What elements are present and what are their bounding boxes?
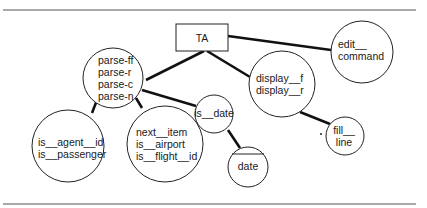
- node-ta: TA: [176, 24, 228, 51]
- node-date: date: [228, 147, 268, 187]
- node-next-item-line-3: is__flight__id: [136, 150, 197, 162]
- node-is-agent: is__agent__id is__passenger: [32, 110, 107, 182]
- node-next-item: next__item is__airport is__flight__id: [127, 106, 203, 182]
- node-parse-line-1: parse-ff: [98, 54, 133, 66]
- node-parse: parse-ff parse-r parse-c parse-n: [83, 48, 143, 108]
- edge-ta-edit-command: [228, 36, 331, 50]
- node-fill-line-line-2: line: [336, 136, 353, 148]
- node-parse-line-3: parse-c: [98, 78, 133, 90]
- node-parse-line-2: parse-r: [98, 66, 132, 78]
- node-is-date-label: is__date: [194, 107, 234, 119]
- node-parse-line-4: parse-n: [98, 90, 134, 102]
- node-next-item-line-1: next__item: [136, 126, 188, 138]
- node-edit-command: edit__ command: [331, 21, 393, 83]
- node-display: display__f display__r: [249, 51, 315, 117]
- node-next-item-line-2: is__airport: [136, 138, 185, 150]
- edge-is-date-date: [228, 130, 240, 148]
- node-is-agent-line-2: is__passenger: [38, 148, 107, 160]
- node-edit-command-line-1: edit__: [338, 38, 367, 50]
- node-date-label: date: [238, 160, 259, 172]
- edge-display-fill-line: [300, 112, 330, 124]
- fill-line-marker-dot: [320, 133, 322, 135]
- node-fill-line-line-1: fill__: [333, 124, 355, 136]
- edge-ta-parse: [146, 51, 204, 80]
- edge-parse-is-date: [142, 90, 196, 106]
- node-is-agent-line-1: is__agent__id: [38, 136, 104, 148]
- node-edit-command-line-2: command: [338, 50, 384, 62]
- node-ta-label: TA: [196, 32, 209, 44]
- edge-parse-next-item: [136, 98, 142, 108]
- node-display-line-2: display__r: [256, 84, 304, 96]
- node-is-date: is__date: [194, 95, 234, 133]
- structure-chart-diagram: TA parse-ff parse-r parse-c parse-n disp…: [0, 0, 427, 208]
- node-display-line-1: display__f: [256, 72, 303, 84]
- edge-ta-display: [207, 51, 250, 77]
